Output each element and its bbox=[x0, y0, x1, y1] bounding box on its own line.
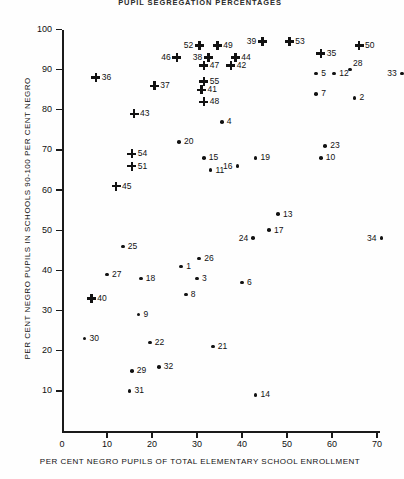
dot-marker-icon bbox=[139, 277, 143, 281]
data-point-label: 17 bbox=[274, 226, 283, 235]
dot-marker-icon bbox=[105, 273, 109, 277]
cross-marker-icon bbox=[130, 109, 139, 118]
dot-marker-icon bbox=[254, 156, 258, 160]
data-point-label: 39 bbox=[247, 37, 256, 46]
dot-marker-icon bbox=[130, 369, 134, 373]
dot-marker-icon bbox=[353, 96, 357, 100]
y-tick-label: 90 bbox=[26, 65, 52, 74]
cross-marker-icon bbox=[91, 73, 100, 82]
x-tick-label: 60 bbox=[317, 440, 347, 449]
data-point-label: 48 bbox=[210, 97, 219, 106]
data-point-label: 14 bbox=[261, 390, 270, 399]
cross-marker-icon bbox=[213, 41, 222, 50]
data-point-label: 50 bbox=[365, 41, 374, 50]
data-point-label: 23 bbox=[330, 141, 339, 150]
cross-marker-icon bbox=[112, 182, 121, 191]
dot-marker-icon bbox=[380, 236, 384, 240]
data-point-label: 9 bbox=[144, 310, 149, 319]
data-point-label: 19 bbox=[261, 153, 270, 162]
x-tick-label: 0 bbox=[47, 440, 77, 449]
data-point-label: 18 bbox=[146, 274, 155, 283]
data-point-label: 40 bbox=[97, 294, 106, 303]
dot-marker-icon bbox=[314, 92, 318, 96]
x-tick-mark bbox=[286, 432, 287, 438]
x-tick-mark bbox=[151, 432, 152, 438]
cross-marker-icon bbox=[172, 53, 181, 62]
dot-marker-icon bbox=[195, 277, 199, 281]
dot-marker-icon bbox=[267, 228, 271, 232]
data-point-label: 21 bbox=[218, 342, 227, 351]
dot-marker-icon bbox=[202, 156, 206, 160]
cross-marker-icon bbox=[197, 85, 206, 94]
cross-marker-icon bbox=[285, 37, 294, 46]
data-point-label: 13 bbox=[283, 210, 292, 219]
data-point-label: 27 bbox=[112, 270, 121, 279]
dot-marker-icon bbox=[128, 389, 132, 393]
dot-marker-icon bbox=[236, 164, 240, 168]
data-point-label: 54 bbox=[138, 149, 147, 158]
data-point-label: 52 bbox=[184, 41, 193, 50]
data-point-label: 42 bbox=[237, 61, 246, 70]
data-point-label: 20 bbox=[184, 137, 193, 146]
plot-area bbox=[62, 30, 380, 432]
data-point-label: 49 bbox=[223, 41, 232, 50]
dot-marker-icon bbox=[157, 365, 161, 369]
data-point-label: 7 bbox=[321, 89, 326, 98]
data-point-label: 33 bbox=[387, 69, 396, 78]
y-axis-label: PER CENT NEGRO PUPILS IN SCHOOLS 90-100 … bbox=[23, 80, 32, 360]
dot-marker-icon bbox=[209, 168, 213, 172]
data-point-label: 41 bbox=[208, 85, 217, 94]
x-tick-label: 20 bbox=[137, 440, 167, 449]
data-point-label: 28 bbox=[353, 59, 362, 68]
dot-marker-icon bbox=[400, 72, 404, 76]
data-point-label: 35 bbox=[327, 49, 336, 58]
data-point-label: 31 bbox=[135, 386, 144, 395]
x-tick-mark bbox=[241, 432, 242, 438]
data-point-label: 15 bbox=[209, 153, 218, 162]
cross-marker-icon bbox=[127, 162, 136, 171]
x-tick-label: 30 bbox=[182, 440, 212, 449]
dot-marker-icon bbox=[323, 144, 327, 148]
dot-marker-icon bbox=[220, 120, 224, 124]
data-point-label: 53 bbox=[295, 37, 304, 46]
x-tick-label: 10 bbox=[92, 440, 122, 449]
dot-marker-icon bbox=[276, 212, 280, 216]
cross-marker-icon bbox=[355, 41, 364, 50]
chart-title: PUPIL SEGREGATION PERCENTAGES bbox=[0, 0, 400, 7]
data-point-label: 5 bbox=[321, 69, 326, 78]
data-point-label: 47 bbox=[210, 61, 219, 70]
data-point-label: 1 bbox=[186, 262, 191, 271]
cross-marker-icon bbox=[226, 61, 235, 70]
dot-marker-icon bbox=[121, 245, 125, 249]
data-point-label: 43 bbox=[140, 109, 149, 118]
data-point-label: 11 bbox=[216, 166, 225, 175]
data-point-label: 25 bbox=[128, 242, 137, 251]
cross-marker-icon bbox=[199, 97, 208, 106]
dot-marker-icon bbox=[148, 341, 152, 345]
cross-marker-icon bbox=[87, 294, 96, 303]
data-point-label: 32 bbox=[164, 362, 173, 371]
data-point-label: 29 bbox=[137, 366, 146, 375]
data-point-label: 3 bbox=[202, 274, 207, 283]
data-point-label: 26 bbox=[204, 254, 213, 263]
cross-marker-icon bbox=[316, 49, 325, 58]
x-tick-label: 70 bbox=[362, 440, 392, 449]
x-axis-label: PER CENT NEGRO PUPILS OF TOTAL ELEMENTAR… bbox=[0, 457, 400, 466]
x-tick-label: 50 bbox=[272, 440, 302, 449]
data-point-label: 4 bbox=[227, 117, 232, 126]
data-point-label: 37 bbox=[160, 81, 169, 90]
y-tick-label: 10 bbox=[26, 386, 52, 395]
data-point-label: 10 bbox=[326, 153, 335, 162]
data-point-label: 8 bbox=[191, 290, 196, 299]
cross-marker-icon bbox=[199, 61, 208, 70]
data-point-label: 45 bbox=[122, 182, 131, 191]
dot-marker-icon bbox=[319, 156, 323, 160]
x-tick-mark bbox=[196, 432, 197, 438]
cross-marker-icon bbox=[258, 37, 267, 46]
cross-marker-icon bbox=[127, 149, 136, 158]
x-tick-label: 40 bbox=[227, 440, 257, 449]
data-point-label: 2 bbox=[360, 93, 365, 102]
x-tick-mark bbox=[376, 432, 377, 438]
cross-marker-icon bbox=[195, 41, 204, 50]
